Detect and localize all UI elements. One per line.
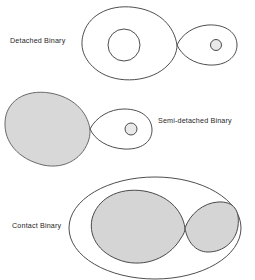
semidetached-secondary-star [125, 123, 137, 135]
label-contact-binary: Contact Binary [12, 221, 61, 230]
detached-primary-star [108, 29, 140, 61]
label-detached-binary: Detached Binary [10, 36, 66, 45]
binary-star-types-figure: Detached Binary Semi-detached Binary Con… [0, 0, 255, 280]
label-semi-detached-binary: Semi-detached Binary [158, 116, 232, 125]
diagram-canvas: Detached Binary Semi-detached Binary Con… [0, 0, 255, 280]
detached-secondary-star [211, 40, 222, 51]
